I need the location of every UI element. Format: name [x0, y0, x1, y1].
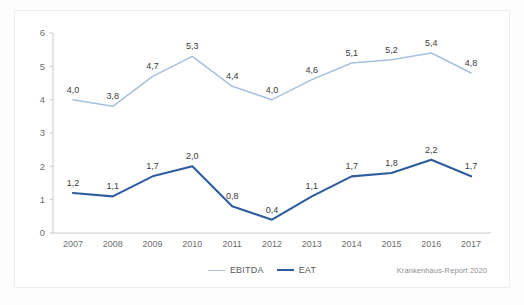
legend-item-ebitda[interactable]: EBITDA	[208, 265, 264, 275]
data-point-label: 2,0	[186, 151, 199, 161]
legend-line-icon-ebitda	[208, 270, 225, 271]
legend-item-eat[interactable]: EAT	[277, 265, 316, 275]
data-point-label: 1,2	[67, 178, 80, 188]
x-axis-tick-label: 2008	[103, 239, 123, 249]
data-point-label: 0,4	[266, 205, 279, 215]
data-point-label: 1,8	[385, 158, 398, 168]
x-axis-tick-label: 2012	[262, 239, 282, 249]
data-point-label: 1,7	[146, 161, 159, 171]
data-point-label: 1,1	[306, 181, 319, 191]
x-axis: 2007200820092010201120122013201420152016…	[53, 233, 491, 249]
data-point-label: 4,4	[226, 71, 239, 81]
data-point-label: 2,2	[425, 145, 438, 155]
y-axis: 0123456	[40, 27, 53, 238]
x-axis-tick-label: 2015	[381, 239, 401, 249]
data-point-label: 5,1	[345, 48, 358, 58]
data-point-label: 1,7	[465, 161, 478, 171]
source-note: Krankenhaus-Report 2020	[397, 266, 487, 275]
x-axis-tick-label: 2017	[461, 239, 481, 249]
data-point-label: 4,8	[465, 58, 478, 68]
y-axis-tick-label: 4	[40, 94, 45, 105]
x-axis-tick-label: 2013	[302, 239, 322, 249]
legend-line-icon-eat	[277, 269, 294, 271]
y-axis-tick-label: 5	[40, 61, 45, 72]
x-axis-tick-label: 2014	[342, 239, 362, 249]
legend-label-ebitda: EBITDA	[230, 265, 264, 275]
line-chart-plot: 0123456 20072008200920102011201220132014…	[15, 11, 509, 287]
x-axis-tick-label: 2009	[143, 239, 163, 249]
data-point-label: 5,2	[385, 45, 398, 55]
data-series-group	[73, 53, 471, 220]
y-axis-tick-label: 3	[40, 127, 45, 138]
data-point-label: 5,3	[186, 41, 199, 51]
chart-figure: 0123456 20072008200920102011201220132014…	[0, 0, 524, 305]
data-point-label: 1,1	[106, 181, 119, 191]
y-axis-tick-label: 2	[40, 161, 45, 172]
legend-label-eat: EAT	[299, 265, 316, 275]
y-axis-tick-label: 6	[40, 27, 45, 38]
data-point-label: 4,0	[266, 85, 279, 95]
x-axis-tick-label: 2007	[63, 239, 83, 249]
x-axis-tick-label: 2016	[421, 239, 441, 249]
data-point-label: 0,8	[226, 191, 239, 201]
chart-card: 0123456 20072008200920102011201220132014…	[14, 10, 510, 288]
data-point-label: 4,6	[306, 65, 319, 75]
data-point-label: 3,8	[106, 91, 119, 101]
series-line-ebitda	[73, 53, 471, 106]
x-axis-tick-label: 2010	[182, 239, 202, 249]
y-axis-tick-label: 0	[40, 227, 45, 238]
data-point-label: 1,7	[345, 161, 358, 171]
data-point-label: 4,7	[146, 61, 159, 71]
data-point-label: 4,0	[67, 85, 80, 95]
data-point-label: 5,4	[425, 38, 438, 48]
y-axis-tick-label: 1	[40, 194, 45, 205]
x-axis-tick-label: 2011	[223, 239, 242, 249]
